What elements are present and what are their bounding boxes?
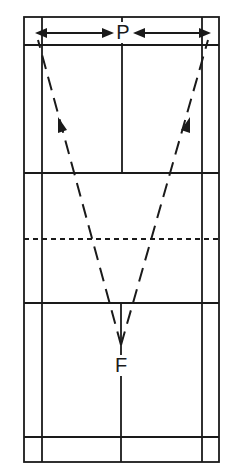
left-diagonal-path [38,40,121,345]
right-arrowhead-icon [199,28,211,38]
right-arrowtail-icon [133,28,145,38]
movement-paths [38,40,208,345]
left-arrowtail-icon [102,28,114,38]
player-label-p: P [116,21,129,43]
left-arrowhead-icon [35,28,47,38]
badminton-court-diagram: P F [0,0,233,475]
court-lines [24,17,219,462]
left-diagonal-arrowhead-icon [58,117,67,133]
player-label-f: F [115,354,127,376]
right-diagonal-path [121,40,208,345]
